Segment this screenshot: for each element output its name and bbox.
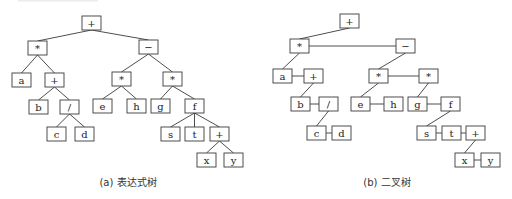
tree-node: d (332, 126, 351, 140)
tree-edge (70, 114, 85, 127)
node-label: x (462, 155, 468, 166)
tree-edge (122, 86, 137, 99)
node-label: g (414, 99, 421, 110)
node-label: h (390, 99, 397, 110)
tree-edge (38, 30, 92, 41)
node-label: a (280, 71, 286, 82)
node-label: b (297, 99, 303, 110)
node-label: * (297, 41, 302, 52)
tree-node: h (127, 99, 146, 113)
tree-node: d (75, 127, 94, 141)
tree-edge (22, 55, 38, 73)
node-label: * (426, 71, 431, 82)
node-label: d (81, 129, 88, 140)
tree-edge (92, 30, 149, 40)
tree-node: b (29, 100, 48, 114)
tree-node: y (481, 153, 500, 167)
tree-edge (103, 86, 122, 99)
tree-node: − (139, 40, 158, 54)
tree-node: x (197, 153, 216, 167)
node-label: c (54, 129, 60, 140)
tree-node: t (442, 126, 461, 140)
tree-node: − (396, 39, 415, 53)
tree-node: * (163, 72, 182, 86)
first-child-edge (427, 111, 451, 126)
tree-node: h (384, 97, 403, 111)
tree-node: e (351, 97, 370, 111)
tree-node: + (304, 69, 323, 83)
tree-node: * (28, 41, 47, 55)
node-label: − (144, 42, 152, 53)
tree-node: + (82, 16, 101, 30)
tree-node: s (161, 127, 180, 141)
node-label: y (230, 155, 237, 166)
first-child-edge (317, 111, 329, 126)
tree-node: e (93, 99, 112, 113)
node-label: + (50, 75, 58, 86)
tree-node: * (369, 69, 388, 83)
node-label: + (87, 18, 95, 29)
tree-edge (220, 141, 234, 153)
tree-node: y (224, 153, 243, 167)
tree-node: + (45, 73, 64, 87)
node-label: * (376, 71, 381, 82)
tree-node: * (419, 69, 438, 83)
first-child-edge (379, 53, 406, 69)
tree-node: c (307, 126, 326, 140)
tree-edge (55, 87, 70, 100)
tree-edge (149, 54, 173, 72)
node-label: + (471, 128, 479, 139)
tree-edge (207, 141, 220, 153)
node-label: + (215, 129, 223, 140)
figure: +*−a+**b/ehgfcdst+xy (a) 表达式树 +*−a+**b/e… (0, 0, 512, 199)
node-label: y (487, 155, 494, 166)
tree-node: a (12, 73, 31, 87)
node-label: * (170, 74, 175, 85)
tree-edge (161, 86, 173, 99)
tree-edge (195, 113, 220, 127)
tree-node: x (455, 153, 474, 167)
binary-tree-panel: +*−a+**b/ehgfcdst+xy (b) 二叉树 (273, 14, 500, 188)
first-child-edge (301, 83, 314, 97)
tree-node: + (466, 126, 485, 140)
tree-node: b (291, 97, 310, 111)
first-child-edge (283, 53, 300, 69)
tree-node: g (408, 97, 427, 111)
tree-node: * (290, 39, 309, 53)
node-label: t (449, 128, 453, 139)
expression-tree-caption: (a) 表达式树 (99, 176, 156, 188)
tree-edge (122, 54, 149, 72)
node-label: * (119, 74, 124, 85)
node-label: + (345, 16, 353, 27)
tree-edge (38, 55, 55, 73)
node-label: h (133, 101, 140, 112)
first-child-edge (361, 83, 379, 97)
tree-node: a (273, 69, 292, 83)
node-label: x (204, 155, 210, 166)
node-label: s (168, 129, 173, 140)
expression-tree-panel: +*−a+**b/ehgfcdst+xy (a) 表达式树 (12, 16, 243, 188)
tree-diagram-canvas: +*−a+**b/ehgfcdst+xy (a) 表达式树 +*−a+**b/e… (0, 0, 512, 199)
node-label: t (192, 129, 196, 140)
node-label: s (424, 128, 429, 139)
node-label: − (401, 41, 409, 52)
tree-node: s (417, 126, 436, 140)
node-label: + (309, 71, 317, 82)
node-label: e (100, 101, 106, 112)
node-label: b (35, 102, 41, 113)
tree-edge (173, 86, 195, 99)
tree-node: * (112, 72, 131, 86)
tree-node: f (441, 97, 460, 111)
tree-node: f (185, 99, 204, 113)
tree-node: t (185, 127, 204, 141)
tree-edge (39, 87, 55, 100)
node-label: a (19, 75, 25, 86)
tree-node: + (210, 127, 229, 141)
tree-node: / (60, 100, 79, 114)
node-label: d (338, 128, 345, 139)
node-label: c (314, 128, 320, 139)
node-label: * (35, 43, 40, 54)
first-child-edge (300, 28, 350, 39)
first-child-edge (418, 83, 429, 97)
first-child-edge (465, 140, 476, 153)
